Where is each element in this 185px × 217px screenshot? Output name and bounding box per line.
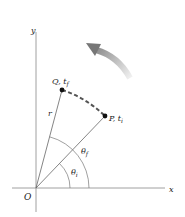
radius-line-p [36, 116, 105, 188]
point-p [103, 114, 108, 119]
x-axis-label: x [169, 185, 174, 194]
theta-i-label: θi [71, 168, 78, 178]
origin-label: O [24, 192, 32, 202]
diagram-canvas: y x O r Q, tf P, ti θf θi [0, 0, 185, 217]
point-q [60, 88, 65, 93]
theta-f-label: θf [81, 147, 90, 158]
radius-label: r [48, 109, 53, 118]
point-p-label: P, ti [108, 114, 123, 124]
theta-i-arc [60, 164, 71, 189]
radius-line-q [36, 90, 62, 188]
y-axis-label: y [30, 26, 36, 35]
dashed-path [62, 90, 105, 116]
point-q-label: Q, tf [52, 77, 70, 88]
rotation-arrow-icon [86, 43, 130, 78]
